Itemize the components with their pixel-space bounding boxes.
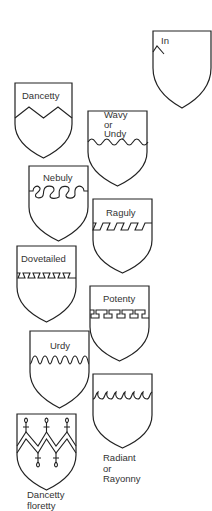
radiant-caption-line-3: Rayonny [103, 474, 141, 485]
radiant-caption: Radiant or Rayonny [103, 453, 141, 485]
shield-nebuly: Nebuly [28, 165, 89, 242]
shield-potenty: Potenty [89, 285, 150, 362]
shield-dancetty: Dancetty [14, 82, 73, 159]
shield-wavy-label-3: Undy [104, 129, 127, 139]
shield-wavy: Wavy or Undy [87, 110, 148, 187]
shield-partial: In [152, 30, 212, 110]
shield-dancetty-label: Dancetty [22, 91, 60, 101]
shield-radiant [92, 373, 153, 449]
shield-raguly: Raguly [92, 198, 153, 274]
dancetty-floretty-caption-line-2: floretty [27, 501, 65, 511]
dancetty-floretty-caption-line-1: Dancetty [27, 490, 65, 501]
shield-nebuly-label: Nebuly [43, 173, 73, 183]
rayonny-shield-icon [92, 373, 153, 449]
shield-dovetailed: Dovetailed [16, 245, 77, 323]
shield-dovetailed-label: Dovetailed [21, 254, 66, 264]
shield-urdy-label: Urdy [50, 341, 70, 351]
shield-potenty-label: Potenty [103, 294, 135, 304]
shield-raguly-label: Raguly [106, 208, 136, 218]
dancetty-floretty-caption: Dancetty floretty [27, 490, 65, 511]
radiant-caption-line-1: Radiant [103, 453, 141, 464]
dancetty-floretty-shield-icon [16, 413, 77, 491]
shield-urdy: Urdy [29, 330, 90, 409]
shield-dancetty-floretty [16, 413, 77, 491]
shield-partial-label: In [161, 36, 169, 46]
